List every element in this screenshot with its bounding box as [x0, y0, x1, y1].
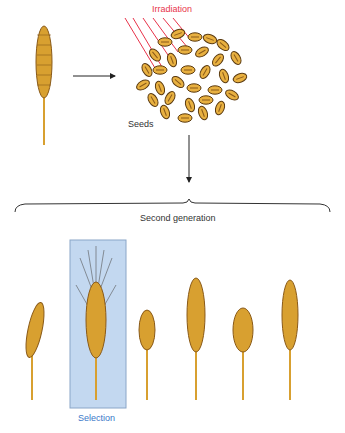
offspring-wheat-4	[187, 278, 205, 400]
brace	[15, 199, 330, 212]
offspring-wheat-6	[282, 280, 298, 400]
irradiation-rays	[125, 18, 191, 72]
second-generation-label: Second generation	[140, 213, 216, 223]
seed-cluster	[135, 28, 248, 123]
seeds-label: Seeds	[128, 119, 154, 129]
irradiation-label: Irradiation	[152, 4, 192, 14]
parent-wheat	[36, 26, 52, 145]
offspring-wheat-1	[22, 301, 47, 400]
offspring-wheat-5	[233, 308, 253, 400]
selection-label: Selection	[78, 413, 115, 423]
offspring-wheat-3	[139, 310, 155, 400]
wheat-mutation-diagram: Irradiation Seeds Second generation Sele…	[0, 0, 345, 433]
